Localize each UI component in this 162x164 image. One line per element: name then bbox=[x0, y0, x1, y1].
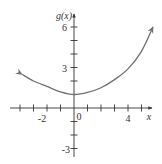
y-tick-label-6: 6 bbox=[62, 22, 67, 33]
y-tick-label-3: 3 bbox=[62, 63, 67, 74]
g-curve bbox=[22, 27, 153, 95]
x-axis-label: x bbox=[146, 111, 152, 122]
x-tick-label-0: 0 bbox=[77, 111, 82, 122]
x-tick-label-4: 4 bbox=[126, 113, 131, 124]
y-tick-label-neg3: -3 bbox=[62, 144, 70, 155]
function-graph: -2 0 4 6 3 -3 x g(x) bbox=[0, 0, 162, 164]
y-axis-label: g(x) bbox=[56, 10, 73, 22]
x-tick-label-neg2: -2 bbox=[38, 113, 46, 124]
